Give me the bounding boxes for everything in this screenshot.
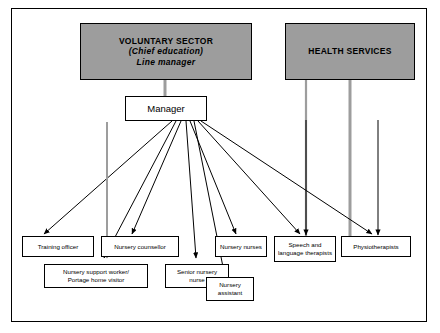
voluntary-sector-line3: Line manager — [137, 57, 196, 67]
training-officer-label: Training officer — [38, 243, 79, 251]
diagram-canvas: VOLUNTARY SECTOR (Chief education) Line … — [0, 0, 440, 333]
node-nursery-support-worker: Nursery support worker/ Portage home vis… — [44, 264, 148, 288]
nursery-counsellor-label: Nursery counsellor — [114, 243, 166, 251]
node-physiotherapists: Physiotherapists — [341, 236, 411, 257]
node-manager: Manager — [125, 96, 207, 121]
voluntary-sector-line2: (Chief education) — [129, 46, 204, 56]
nursery-support-worker-line1: Nursery support worker/ — [63, 268, 129, 275]
senior-nursery-nurse-line2: nurse — [189, 276, 204, 283]
health-services-line1: HEALTH SERVICES — [308, 46, 392, 57]
nursery-nurses-label: Nursery nurses — [220, 243, 262, 251]
node-training-officer: Training officer — [22, 236, 94, 257]
speech-and-language-therapists-label: Speech and language therapists — [277, 241, 333, 257]
header-health-services: HEALTH SERVICES — [285, 23, 415, 80]
manager-label: Manager — [147, 103, 185, 114]
voluntary-sector-line1: VOLUNTARY SECTOR — [119, 36, 213, 46]
node-nursery-nurses: Nursery nurses — [215, 236, 267, 257]
physiotherapists-label: Physiotherapists — [353, 243, 398, 251]
node-nursery-assistant: Nursery assistant — [206, 277, 254, 301]
node-speech-and-language-therapists: Speech and language therapists — [274, 236, 336, 262]
nursery-assistant-line2: assistant — [218, 289, 242, 296]
nursery-support-worker-line2: Portage home visitor — [68, 276, 125, 283]
node-nursery-counsellor: Nursery counsellor — [101, 236, 179, 257]
nursery-assistant-line1: Nursery — [219, 281, 241, 288]
header-voluntary-sector: VOLUNTARY SECTOR (Chief education) Line … — [80, 23, 252, 80]
senior-nursery-nurse-line1: Senior nursery — [177, 268, 217, 275]
